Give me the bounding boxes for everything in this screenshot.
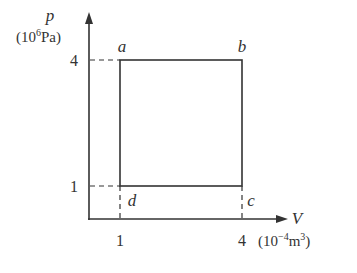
y-axis-arrow-icon <box>85 12 93 24</box>
pv-diagram: p (106Pa) V (10−4m3) 4 1 1 4 a b c d <box>0 0 357 273</box>
cycle-abcd <box>120 60 242 186</box>
point-label-a: a <box>118 37 127 56</box>
point-label-d: d <box>128 191 137 210</box>
y-tick-4: 4 <box>70 52 78 69</box>
x-axis-variable: V <box>292 209 305 228</box>
point-label-c: c <box>247 191 255 210</box>
x-axis <box>88 215 288 223</box>
y-tick-1: 1 <box>70 178 78 195</box>
y-axis <box>85 12 93 220</box>
y-axis-variable: p <box>45 6 55 25</box>
y-axis-unit: (106Pa) <box>16 27 61 46</box>
x-tick-1: 1 <box>116 232 124 249</box>
x-tick-4: 4 <box>238 232 246 249</box>
point-label-b: b <box>238 37 247 56</box>
x-axis-unit: (10−4m3) <box>258 231 310 250</box>
guide-lines <box>90 60 242 219</box>
x-axis-arrow-icon <box>276 215 288 223</box>
